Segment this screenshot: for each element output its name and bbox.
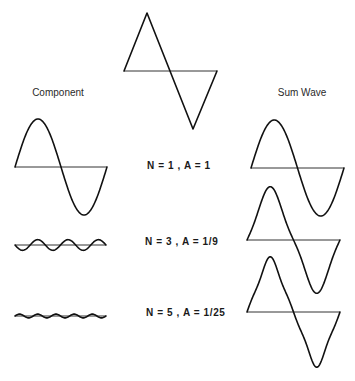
- component-wave-n5: [15, 314, 106, 318]
- sum-wave-column: [247, 120, 344, 367]
- target-triangle-wave: [124, 13, 217, 129]
- fourier-triangle-diagram: Component Sum Wave N = 1 , A = 1 N = 3 ,…: [0, 0, 355, 381]
- component-wave-n1: [15, 119, 107, 215]
- harmonic-label-n1: N = 1 , A = 1: [147, 160, 211, 171]
- sum-wave-n1: [251, 120, 344, 216]
- sum-wave-heading: Sum Wave: [278, 87, 327, 98]
- sum-wave-n5: [247, 257, 340, 368]
- component-wave-n3: [15, 240, 106, 251]
- component-column: [15, 119, 107, 318]
- harmonic-label-n5: N = 5 , A = 1/25: [146, 307, 225, 318]
- harmonic-label-n3: N = 3 , A = 1/9: [145, 236, 218, 247]
- component-heading: Component: [32, 87, 84, 98]
